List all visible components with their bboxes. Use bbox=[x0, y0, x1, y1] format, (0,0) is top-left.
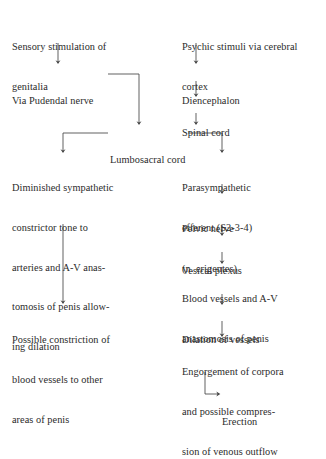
node-line: Lumbosacral cord bbox=[110, 153, 185, 166]
node-line: Possible constriction of bbox=[12, 333, 110, 346]
node-lumbosacral-cord: Lumbosacral cord bbox=[110, 127, 185, 193]
node-line: Via Pudendal nerve bbox=[12, 94, 94, 107]
connector-lumbosacral-to-sympathetic bbox=[63, 133, 108, 152]
node-line: Sensory stimulation of bbox=[12, 40, 106, 53]
node-line: constrictor tone to bbox=[12, 221, 113, 234]
node-line: Spinal cord bbox=[182, 126, 230, 139]
node-possible-constriction: Possible constriction of blood vessels t… bbox=[12, 307, 110, 452]
node-line: arteries and A-V anas- bbox=[12, 261, 113, 274]
node-line: Engorgement of corpora bbox=[182, 365, 284, 378]
connector-pudendal-to-lumbosacral bbox=[108, 74, 139, 124]
node-erection: Erection bbox=[222, 389, 257, 455]
node-line: areas of penis bbox=[12, 413, 110, 426]
node-line: Diminished sympathetic bbox=[12, 181, 113, 194]
node-line: Erection bbox=[222, 415, 257, 428]
node-line: Psychic stimuli via cerebral bbox=[182, 40, 298, 53]
node-line: Blood vessels and A-V bbox=[182, 292, 278, 305]
node-via-pudendal-nerve: Via Pudendal nerve bbox=[12, 68, 94, 134]
node-line: Parasympathetic bbox=[182, 181, 252, 194]
node-line: blood vessels to other bbox=[12, 373, 110, 386]
node-line: Pelvic nerve bbox=[182, 222, 237, 235]
